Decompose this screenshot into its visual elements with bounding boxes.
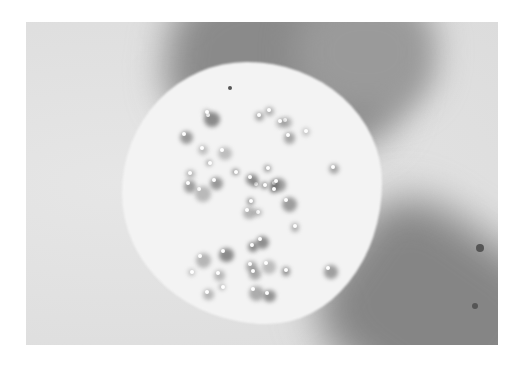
bright-granule [284,198,288,202]
bright-granule [286,133,290,137]
bright-granule [245,208,249,212]
bright-granule [251,269,255,273]
bright-granule [257,113,261,117]
bright-granule [266,166,270,170]
bright-granule [234,170,238,174]
bright-granule [198,254,202,258]
speck [228,86,232,90]
bright-granule [264,261,268,265]
bright-granule [200,146,204,150]
bright-granule [272,187,276,191]
specimen-disc [122,62,382,324]
bright-granule [186,181,190,185]
bright-granule [208,161,212,165]
speck [472,303,478,309]
bright-granule [188,171,192,175]
bright-granule [248,175,252,179]
bright-granule [221,249,225,253]
bright-granule [263,183,267,187]
specimen-photo [26,22,498,345]
bright-granule [258,237,262,241]
bright-granule [331,165,335,169]
bright-granule [267,108,271,112]
bright-granule [284,268,288,272]
speck [476,244,484,252]
bright-granule [221,285,225,289]
